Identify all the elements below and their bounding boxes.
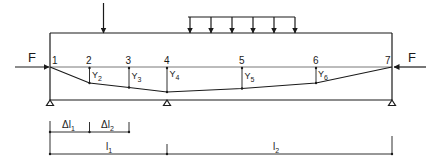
node-2-label: 2 bbox=[86, 55, 92, 66]
node-4-label: 4 bbox=[164, 55, 170, 66]
node-5-label: 5 bbox=[239, 55, 245, 66]
beam-diagram: F F 1 2 3 4 5 6 7 Y2 Y3 Y4 Y5 Y6 bbox=[0, 0, 437, 166]
ordinate-y4: Y4 bbox=[167, 68, 180, 92]
node-7-label: 7 bbox=[385, 55, 391, 66]
dim-l2-label: l2 bbox=[273, 141, 279, 154]
dim-l1-label: l1 bbox=[106, 141, 112, 154]
svg-text:Y2: Y2 bbox=[92, 70, 102, 82]
support-middle bbox=[164, 100, 171, 106]
node-1-label: 1 bbox=[52, 55, 58, 66]
dimension-delta-l: Δl1 Δl2 bbox=[49, 119, 130, 133]
dim-dl2-label: Δl2 bbox=[101, 119, 114, 132]
svg-text:Y4: Y4 bbox=[170, 69, 180, 81]
dimension-l: l1 l2 bbox=[49, 133, 393, 155]
support-right bbox=[389, 100, 396, 106]
ordinate-y3: Y3 bbox=[129, 68, 142, 88]
svg-text:Y6: Y6 bbox=[318, 69, 328, 81]
distributed-load bbox=[188, 17, 295, 33]
node-3-label: 3 bbox=[126, 55, 132, 66]
ordinate-y5: Y5 bbox=[242, 68, 255, 89]
right-force-label: F bbox=[408, 50, 416, 65]
svg-text:Y3: Y3 bbox=[132, 71, 142, 83]
right-force: F bbox=[394, 50, 426, 67]
left-force: F bbox=[15, 50, 49, 67]
dim-dl1-label: Δl1 bbox=[62, 119, 75, 132]
support-left bbox=[47, 100, 54, 106]
svg-text:Y5: Y5 bbox=[245, 71, 255, 83]
left-force-label: F bbox=[28, 50, 36, 65]
ordinate-y2: Y2 bbox=[90, 68, 103, 83]
node-6-label: 6 bbox=[313, 55, 319, 66]
